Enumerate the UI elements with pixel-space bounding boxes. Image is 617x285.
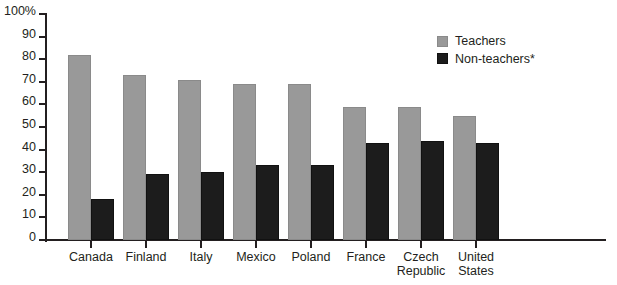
y-axis-tick-label: 80 <box>22 50 36 63</box>
x-axis-tick-mark <box>200 241 202 248</box>
bar-non-teachers <box>201 172 224 240</box>
bar-non-teachers <box>91 199 114 240</box>
bar-teachers <box>288 84 311 240</box>
y-axis-tick-label: 100% <box>4 5 36 18</box>
y-axis-tick-mark <box>39 149 46 151</box>
y-axis-tick-mark <box>39 126 46 128</box>
y-axis-tick-label: 0 <box>29 231 36 244</box>
legend-item: Teachers <box>437 35 535 48</box>
x-axis-tick-mark <box>475 241 477 248</box>
bar-teachers <box>453 116 476 240</box>
bar-teachers <box>343 107 366 240</box>
bar-non-teachers <box>366 143 389 240</box>
bar-non-teachers <box>256 165 279 240</box>
bar-group <box>233 14 279 240</box>
y-axis-tick-label: 10 <box>22 208 36 221</box>
x-axis-tick-mark <box>420 241 422 248</box>
y-axis-tick-label: 40 <box>22 141 36 154</box>
bar-non-teachers <box>421 141 444 240</box>
bar-chart: 0102030405060708090100% CanadaFinlandIta… <box>0 0 617 285</box>
bar-non-teachers <box>146 174 169 240</box>
legend-swatch-icon <box>437 53 448 64</box>
y-axis-tick-mark <box>39 36 46 38</box>
y-axis-tick-label: 20 <box>22 186 36 199</box>
y-axis-tick-label: 50 <box>22 118 36 131</box>
legend-item-label: Teachers <box>455 35 506 48</box>
bar-teachers <box>68 55 91 240</box>
y-axis-tick-mark <box>39 103 46 105</box>
bar-group <box>178 14 224 240</box>
legend-item-label: Non-teachers* <box>455 53 535 66</box>
chart-legend: TeachersNon-teachers* <box>437 35 535 70</box>
x-axis-tick-mark <box>145 241 147 248</box>
legend-item: Non-teachers* <box>437 53 535 66</box>
y-axis-tick-label: 90 <box>22 28 36 41</box>
bar-non-teachers <box>476 143 499 240</box>
bar-group <box>123 14 169 240</box>
y-axis-tick-mark <box>39 13 46 15</box>
x-axis-tick-mark <box>255 241 257 248</box>
bar-teachers <box>123 75 146 240</box>
bar-non-teachers <box>311 165 334 240</box>
y-axis-tick-mark <box>39 58 46 60</box>
bar-group <box>288 14 334 240</box>
y-axis-tick-label: 60 <box>22 95 36 108</box>
bar-teachers <box>178 80 201 240</box>
y-axis-tick-mark <box>39 194 46 196</box>
y-axis-tick-mark <box>39 216 46 218</box>
y-axis-tick-mark <box>39 81 46 83</box>
y-axis-tick-label: 30 <box>22 163 36 176</box>
x-axis-tick-mark <box>310 241 312 248</box>
y-axis-tick-mark <box>39 171 46 173</box>
x-axis-tick-mark <box>90 241 92 248</box>
x-axis-tick-mark <box>365 241 367 248</box>
bar-teachers <box>398 107 421 240</box>
y-axis-tick-label: 70 <box>22 73 36 86</box>
legend-swatch-icon <box>437 36 448 47</box>
bar-group <box>343 14 389 240</box>
x-axis-label: United States <box>432 250 520 279</box>
bar-group <box>68 14 114 240</box>
bar-teachers <box>233 84 256 240</box>
y-axis-tick-mark <box>39 239 46 241</box>
